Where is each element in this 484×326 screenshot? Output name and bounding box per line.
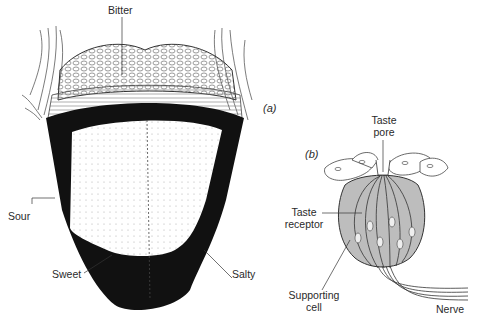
label-taste-pore-line1: Taste (366, 114, 402, 126)
label-taste-receptor: Taste receptor (282, 206, 326, 230)
label-salty: Salty (232, 268, 255, 280)
taste-bud-illustration (322, 140, 468, 300)
label-supporting-cell-line1: Supporting (284, 289, 344, 301)
label-nerve: Nerve (436, 303, 464, 315)
label-taste-pore: Taste pore (366, 114, 402, 138)
label-supporting-cell-line2: cell (284, 301, 344, 313)
panel-a-tag: (a) (263, 102, 276, 114)
label-taste-receptor-line1: Taste (282, 206, 326, 218)
label-bitter: Bitter (108, 4, 133, 16)
label-taste-pore-line2: pore (366, 126, 402, 138)
panel-b-tag: (b) (305, 148, 318, 160)
label-sour: Sour (8, 210, 30, 222)
label-supporting-cell: Supporting cell (284, 289, 344, 313)
label-taste-receptor-line2: receptor (282, 218, 326, 230)
label-sweet: Sweet (52, 268, 81, 280)
